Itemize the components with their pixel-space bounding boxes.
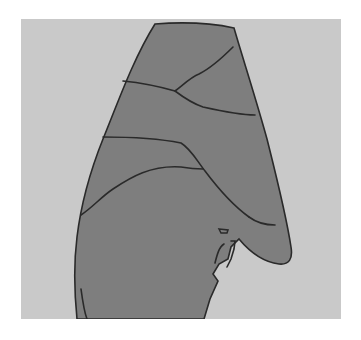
lung-illustration [21, 19, 341, 319]
figure-panel [21, 19, 341, 319]
